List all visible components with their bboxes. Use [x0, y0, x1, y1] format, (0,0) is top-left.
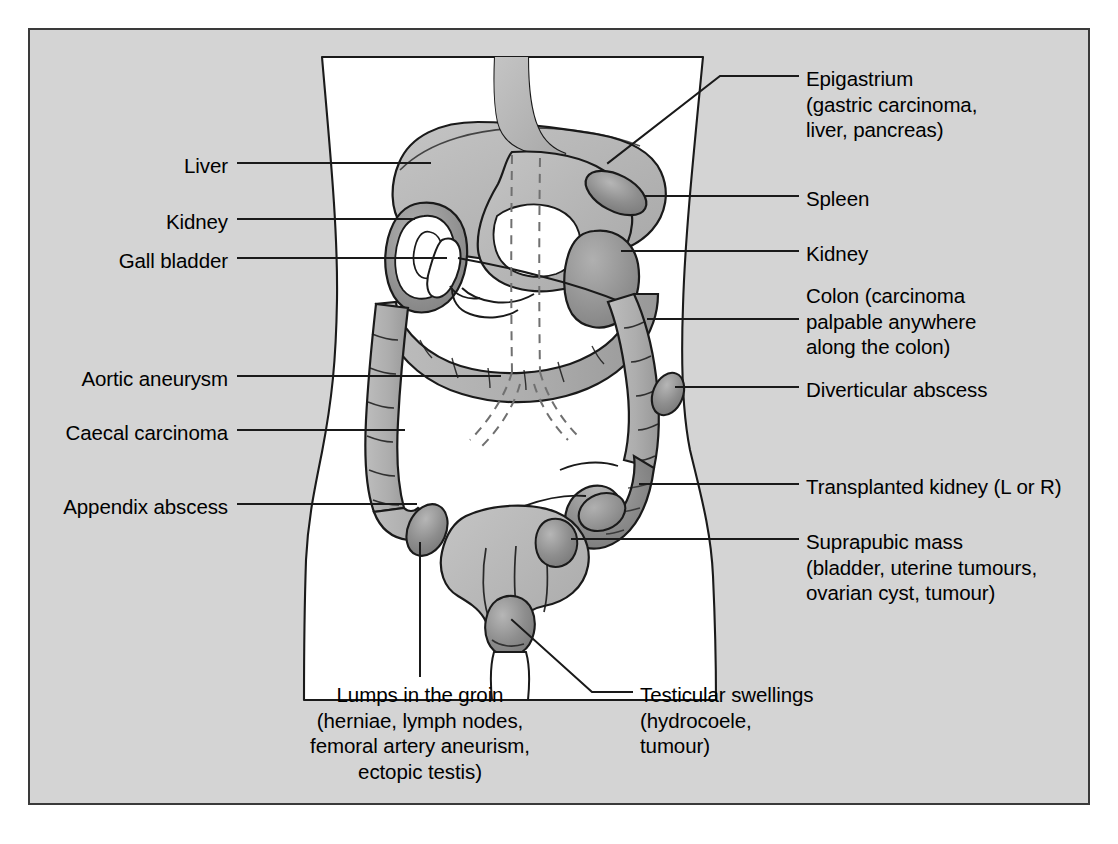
label-spleen: Spleen	[806, 186, 869, 212]
label-kidney-right: Kidney	[806, 241, 868, 267]
label-caecal-carcinoma: Caecal carcinoma	[0, 420, 228, 446]
label-epigastrium: Epigastrium (gastric carcinoma, liver, p…	[806, 66, 977, 143]
label-liver: Liver	[0, 153, 228, 179]
label-lumps-in-the-groin: Lumps in the groin (herniae, lymph nodes…	[228, 682, 612, 784]
label-gall-bladder: Gall bladder	[0, 248, 228, 274]
label-aortic-aneurysm: Aortic aneurysm	[0, 366, 228, 392]
label-suprapubic-mass: Suprapubic mass (bladder, uterine tumour…	[806, 529, 1037, 606]
label-kidney-left: Kidney	[0, 209, 228, 235]
label-diverticular-abscess: Diverticular abscess	[806, 377, 987, 403]
label-colon: Colon (carcinoma palpable anywhere along…	[806, 283, 976, 360]
label-appendix-abscess: Appendix abscess	[0, 494, 228, 520]
abdominal-masses-figure: Epigastrium (gastric carcinoma, liver, p…	[0, 0, 1118, 844]
label-testicular-swellings: Testicular swellings (hydrocoele, tumour…	[640, 682, 813, 759]
label-transplanted-kidney: Transplanted kidney (L or R)	[806, 474, 1061, 500]
